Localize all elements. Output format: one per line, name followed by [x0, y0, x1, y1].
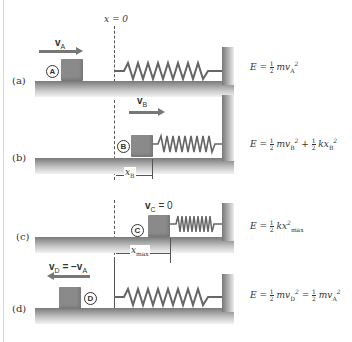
panel-a: A (a) vA E = 12 mvA2 — [0, 0, 352, 95]
state-marker: B — [117, 140, 130, 153]
block — [148, 215, 170, 237]
velocity-label: vB — [137, 95, 147, 108]
energy-equation: E = 12 mvD2 = 12 mvA2 — [250, 288, 341, 302]
spring-icon — [170, 214, 222, 234]
energy-equation: E = 12 kx2max — [250, 219, 304, 233]
block — [131, 135, 153, 157]
state-marker: D — [84, 292, 97, 305]
spring-icon — [114, 286, 222, 308]
velocity-arrow-right-icon — [129, 111, 159, 114]
panel-label: (c) — [16, 231, 29, 242]
velocity-label: vD = −vA — [49, 261, 87, 274]
spring-icon — [114, 60, 222, 82]
block — [61, 59, 83, 81]
ground — [35, 308, 234, 324]
panel-label: (a) — [12, 75, 26, 86]
state-marker: C — [131, 224, 144, 237]
wall — [222, 47, 234, 85]
panel-d: D (d) vD = −vA E = 12 mvD2 = 12 mvA2 — [0, 260, 352, 342]
energy-equation: E = 12 mvB2 + 12 kxB2 — [250, 137, 337, 151]
velocity-label: vA — [55, 37, 65, 50]
panel-b: B (b) vB xB E = 12 mvB2 + 12 kxB2 — [0, 95, 352, 175]
state-marker: A — [46, 65, 59, 78]
spring-icon — [152, 133, 222, 155]
panel-label: (d) — [12, 303, 26, 314]
wall — [222, 274, 234, 312]
wall — [222, 95, 234, 161]
wall — [222, 203, 234, 241]
energy-equation: E = 12 mvA2 — [250, 60, 298, 74]
velocity-arrow-right-icon — [39, 50, 77, 53]
panel-c: C (c) vC = 0 xmax E = 12 kx2max — [0, 175, 352, 260]
dimension-label: xmax — [130, 245, 150, 257]
panel-label: (b) — [12, 152, 26, 163]
block — [59, 287, 81, 309]
velocity-label: vC = 0 — [145, 200, 173, 213]
velocity-arrow-left-icon — [53, 275, 90, 278]
